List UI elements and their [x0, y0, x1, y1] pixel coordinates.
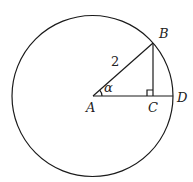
geometry-diagram: A B C D 2 α — [0, 0, 193, 182]
label-d: D — [176, 90, 188, 105]
label-b: B — [158, 26, 169, 41]
segment-ab — [93, 43, 153, 96]
angle-arc — [100, 90, 102, 96]
right-angle-marker — [147, 90, 153, 96]
label-a: A — [85, 100, 95, 115]
angle-label: α — [104, 80, 113, 95]
label-c: C — [148, 100, 158, 115]
radius-label: 2 — [111, 54, 119, 69]
